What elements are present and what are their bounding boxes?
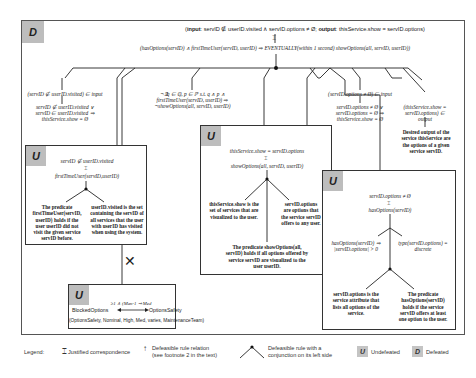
note-line: user userID.: [203, 263, 331, 269]
show-options-predicate: showOptions(all, servID, userID): [201, 163, 333, 169]
justified-correspondence-icon: ⌶: [272, 35, 276, 42]
first-time-top: servID ∉ userID.visited: [26, 158, 148, 164]
legend-conjunction-label-1: Defeasible rule with a: [268, 345, 321, 351]
desired-output-line: service thisService are: [392, 135, 460, 141]
note-line: servID before.: [28, 235, 86, 241]
note-line: userID) holds if the: [28, 217, 86, 223]
legend: Legend: ⌶ Justified correspondence ↑ Def…: [0, 344, 476, 364]
legend-undefeated-label: Undefeated: [371, 349, 400, 355]
legend-defeasible-relation-label-1: Defeasible rule relation: [152, 345, 209, 351]
defeasible-rule-relation-icon: ↑: [143, 345, 147, 353]
safety-tuple: (OptionsSafety, Nominal, High, Med, vari…: [69, 318, 177, 324]
has-options-top: servID.options ≠ Ø: [323, 193, 457, 199]
show-options-bottom-note: The predicate showOptions(all, servID) h…: [203, 244, 331, 269]
justified-correspondence-icon: ⌶: [387, 200, 391, 207]
right-input-condition: (servID.options ≠ Ø) ∈ input: [320, 91, 400, 97]
justified-correspondence-icon: ⌶: [84, 165, 88, 172]
desired-output-note: Desired output of the service thisServic…: [392, 129, 460, 154]
legend-conjunction-label-2: conjunction on its left side: [268, 352, 332, 358]
undefeated-tag: U: [201, 126, 221, 146]
left-input-condition: (servID ∉ userID.visited) ∈ input: [20, 91, 110, 97]
undefeated-tag: U: [69, 285, 89, 305]
first-time-user-box: U servID ∉ userID.visited ⌶ firstTimeUse…: [25, 145, 147, 245]
defeasible-conjunction-rule-icon: [238, 345, 266, 359]
justified-correspondence-icon: ⌶: [62, 347, 67, 357]
defeated-tag: D: [22, 21, 44, 43]
note-line: service attribute that: [325, 297, 387, 303]
options-safety-node: OptionsSafety: [149, 307, 189, 313]
legend-undefeated-tag: U: [357, 346, 368, 357]
top-io-statement: (input: servID ∉ userID.visited ∧ servID…: [150, 26, 460, 32]
first-time-right-note: userID.visited is the set containing the…: [86, 204, 148, 235]
bidirectional-arrow-icon: [117, 307, 149, 313]
note-line: firstTimeUser(servID,: [28, 210, 86, 216]
legend-defeated-tag: D: [412, 346, 423, 357]
has-options-right-formula-2: discrete: [389, 246, 457, 252]
right-derived-3: thisService.show = Ø: [320, 116, 400, 122]
legend-defeated-label: Defeated: [426, 349, 449, 355]
safety-box: U BlockedOptions ≥1 ∧ (Man-1 ⇒ Med Optio…: [68, 284, 176, 329]
input-keyword: input: [187, 26, 201, 32]
output-expression: : thisService.show = servID.options): [336, 26, 425, 32]
note-line: one option to the user.: [391, 316, 455, 322]
main-rule: (hasOptions(servID) ∧ firstTimeUser(serv…: [110, 45, 440, 51]
first-time-left-note: The predicate firstTimeUser(servID, user…: [28, 204, 86, 242]
defeasible-conjunction-rule-icon: [46, 181, 126, 203]
first-time-predicate: firstTimeUser(servID,userID): [26, 173, 148, 179]
negation-formula-3: ¬showOptions(all, servID, userID): [145, 103, 240, 109]
legend-title: Legend:: [24, 349, 44, 355]
has-options-predicate: hasOptions(servID): [323, 207, 457, 213]
note-line: when using the system.: [86, 229, 148, 235]
defeat-cross-icon: ✕: [124, 254, 136, 268]
undefeated-tag: U: [323, 171, 343, 191]
note-line: service.: [325, 310, 387, 316]
left-derived-3: thisService.show = Ø: [20, 116, 110, 122]
show-options-left-note: thisService.show is the set of services …: [203, 201, 265, 220]
show-options-top: thisService.show = servID.options: [201, 148, 333, 154]
note-line: lists all options of the: [325, 304, 387, 310]
output-keyword: output: [318, 26, 335, 32]
show-options-box: U thisService.show = servID.options ⌶ sh…: [200, 125, 332, 275]
has-options-left-formula-2: |servID.options| > 0: [323, 246, 389, 252]
legend-defeasible-relation-label-2: (see footnote 2 in the text): [152, 352, 217, 358]
has-options-right-note: The predicate hasOptions(servID) holds i…: [391, 291, 455, 322]
justified-correspondence-icon: ⌶: [264, 155, 268, 162]
note-line: set of services that are: [203, 207, 265, 213]
output-condition-3: output: [395, 116, 455, 122]
desired-output-line: service servID.: [392, 148, 460, 154]
has-options-left-note: servID.options is the service attribute …: [325, 291, 387, 316]
note-line: containing the servID of: [86, 210, 148, 216]
legend-justified-label: Justified correspondence: [68, 349, 130, 355]
input-expression: : servID ∉ userID.visited ∧ servID.optio…: [201, 26, 319, 32]
note-line: all services that the user: [86, 217, 148, 223]
note-line: visualized to the user.: [203, 214, 265, 220]
has-options-box: U servID.options ≠ Ø ⌶ hasOptions(servID…: [322, 170, 456, 330]
blocked-options-node: BlockedOptions: [72, 307, 117, 313]
conjunction-node-icon: [274, 66, 278, 70]
